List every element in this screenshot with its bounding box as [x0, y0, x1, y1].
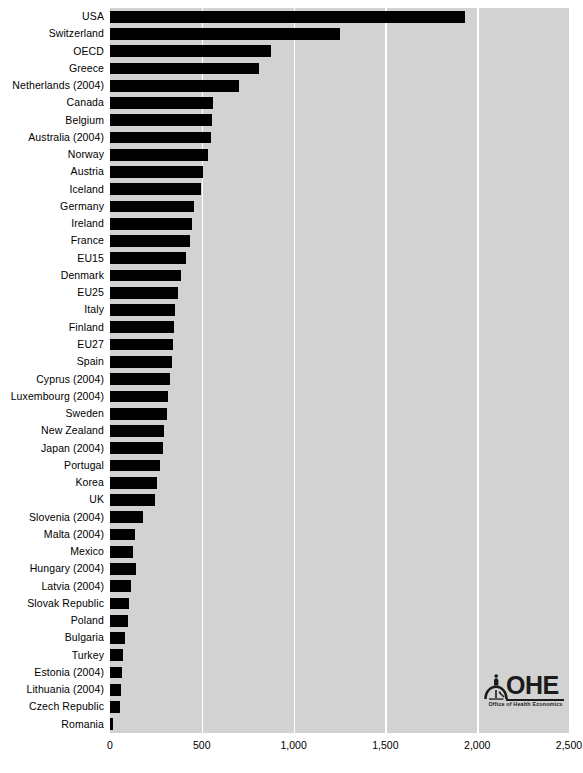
bar[interactable] [110, 149, 208, 161]
category-label: Latvia (2004) [0, 578, 104, 595]
x-tick-label: 0 [107, 739, 113, 751]
bar[interactable] [110, 598, 129, 610]
bar[interactable] [110, 460, 160, 472]
bar[interactable] [110, 580, 131, 592]
bar[interactable] [110, 356, 172, 368]
bar[interactable] [110, 408, 167, 420]
category-label: OECD [0, 43, 104, 60]
bar[interactable] [110, 701, 120, 713]
bar-row[interactable]: Australia (2004) [0, 129, 583, 146]
category-label: USA [0, 8, 104, 25]
category-label: Slovak Republic [0, 595, 104, 612]
bar-row[interactable]: OECD [0, 43, 583, 60]
bar[interactable] [110, 718, 113, 730]
bar[interactable] [110, 546, 133, 558]
ohe-logo: OHE Office of Health Economics [483, 672, 565, 712]
bar[interactable] [110, 166, 203, 178]
bar[interactable] [110, 235, 190, 247]
bar-row[interactable]: France [0, 232, 583, 249]
bar-row[interactable]: Japan (2004) [0, 440, 583, 457]
bar-row[interactable]: EU27 [0, 336, 583, 353]
bar-row[interactable]: USA [0, 8, 583, 25]
bar[interactable] [110, 494, 155, 506]
bar-rows: USASwitzerlandOECDGreeceNetherlands (200… [0, 8, 583, 733]
bar[interactable] [110, 442, 163, 454]
bar-row[interactable]: Hungary (2004) [0, 560, 583, 577]
bar-row[interactable]: Cyprus (2004) [0, 371, 583, 388]
bar-row[interactable]: UK [0, 491, 583, 508]
category-label: Romania [0, 716, 104, 733]
bar[interactable] [110, 218, 192, 230]
ohe-wordmark: OHE [506, 672, 559, 698]
bar-row[interactable]: Romania [0, 716, 583, 733]
bar-row[interactable]: Ireland [0, 215, 583, 232]
bar[interactable] [110, 45, 271, 57]
bar[interactable] [110, 304, 175, 316]
bar[interactable] [110, 477, 157, 489]
bar-row[interactable]: Switzerland [0, 25, 583, 42]
bar[interactable] [110, 684, 121, 696]
bar[interactable] [110, 339, 173, 351]
category-label: EU15 [0, 250, 104, 267]
category-label: Canada [0, 94, 104, 111]
bar[interactable] [110, 11, 465, 23]
bar[interactable] [110, 391, 168, 403]
bar[interactable] [110, 201, 194, 213]
bar-row[interactable]: Spain [0, 353, 583, 370]
bar[interactable] [110, 529, 135, 541]
bar[interactable] [110, 563, 136, 575]
bar-row[interactable]: Mexico [0, 543, 583, 560]
bar-row[interactable]: Norway [0, 146, 583, 163]
bar[interactable] [110, 373, 170, 385]
bar[interactable] [110, 63, 259, 75]
bar[interactable] [110, 28, 340, 40]
bar-row[interactable]: Finland [0, 319, 583, 336]
category-label: Sweden [0, 405, 104, 422]
bar[interactable] [110, 632, 125, 644]
bar-row[interactable]: Malta (2004) [0, 526, 583, 543]
category-label: Norway [0, 146, 104, 163]
category-label: New Zealand [0, 422, 104, 439]
bar-row[interactable]: Bulgaria [0, 629, 583, 646]
category-label: Denmark [0, 267, 104, 284]
bar[interactable] [110, 287, 178, 299]
bar[interactable] [110, 321, 174, 333]
bar[interactable] [110, 667, 122, 679]
bar-row[interactable]: Canada [0, 94, 583, 111]
bar-row[interactable]: Korea [0, 474, 583, 491]
bar-row[interactable]: Belgium [0, 112, 583, 129]
bar-row[interactable]: Iceland [0, 181, 583, 198]
bar-row[interactable]: Turkey [0, 647, 583, 664]
bar-row[interactable]: Greece [0, 60, 583, 77]
bar-row[interactable]: New Zealand [0, 422, 583, 439]
category-label: Turkey [0, 647, 104, 664]
bar-row[interactable]: Germany [0, 198, 583, 215]
category-label: Luxembourg (2004) [0, 388, 104, 405]
bar-row[interactable]: Poland [0, 612, 583, 629]
bar-row[interactable]: Denmark [0, 267, 583, 284]
bar[interactable] [110, 97, 213, 109]
bar-row[interactable]: EU25 [0, 284, 583, 301]
bar[interactable] [110, 270, 181, 282]
bar-row[interactable]: Netherlands (2004) [0, 77, 583, 94]
bar-row[interactable]: EU15 [0, 250, 583, 267]
bar[interactable] [110, 615, 128, 627]
category-label: Cyprus (2004) [0, 371, 104, 388]
bar[interactable] [110, 183, 201, 195]
bar-row[interactable]: Luxembourg (2004) [0, 388, 583, 405]
bar-row[interactable]: Austria [0, 163, 583, 180]
bar-row[interactable]: Slovenia (2004) [0, 509, 583, 526]
category-label: Estonia (2004) [0, 664, 104, 681]
bar-row[interactable]: Portugal [0, 457, 583, 474]
bar-row[interactable]: Latvia (2004) [0, 578, 583, 595]
bar[interactable] [110, 132, 211, 144]
bar[interactable] [110, 80, 239, 92]
bar-row[interactable]: Slovak Republic [0, 595, 583, 612]
bar[interactable] [110, 511, 143, 523]
bar[interactable] [110, 114, 212, 126]
bar[interactable] [110, 425, 164, 437]
bar[interactable] [110, 649, 123, 661]
bar-row[interactable]: Sweden [0, 405, 583, 422]
bar[interactable] [110, 252, 186, 264]
bar-row[interactable]: Italy [0, 301, 583, 318]
